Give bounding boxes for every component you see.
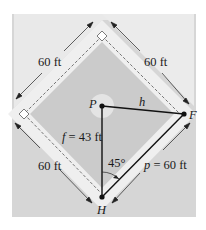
- label-h-segment: h: [139, 95, 145, 109]
- label-p-equation: p = 60 ft: [143, 158, 187, 172]
- label-p-point: P: [88, 97, 97, 111]
- label-h-point: H: [96, 203, 107, 217]
- p-variable: p: [143, 158, 150, 172]
- pitcher-point: [99, 103, 104, 108]
- label-angle: 45°: [108, 156, 126, 170]
- label-60ft-bottom-left: 60 ft: [38, 159, 62, 173]
- label-60ft-top-right: 60 ft: [144, 55, 168, 69]
- p-value: = 60 ft: [150, 158, 187, 172]
- label-f-point: F: [188, 108, 197, 122]
- label-60ft-top-left: 60 ft: [38, 55, 62, 69]
- first-base-point: [181, 111, 186, 116]
- softball-diamond-diagram: P F H h 60 ft 60 ft 60 ft f = 43 ft p = …: [0, 0, 206, 230]
- label-f-equation: f = 43 ft: [62, 130, 103, 144]
- home-point: [99, 194, 104, 199]
- f-value: = 43 ft: [65, 130, 102, 144]
